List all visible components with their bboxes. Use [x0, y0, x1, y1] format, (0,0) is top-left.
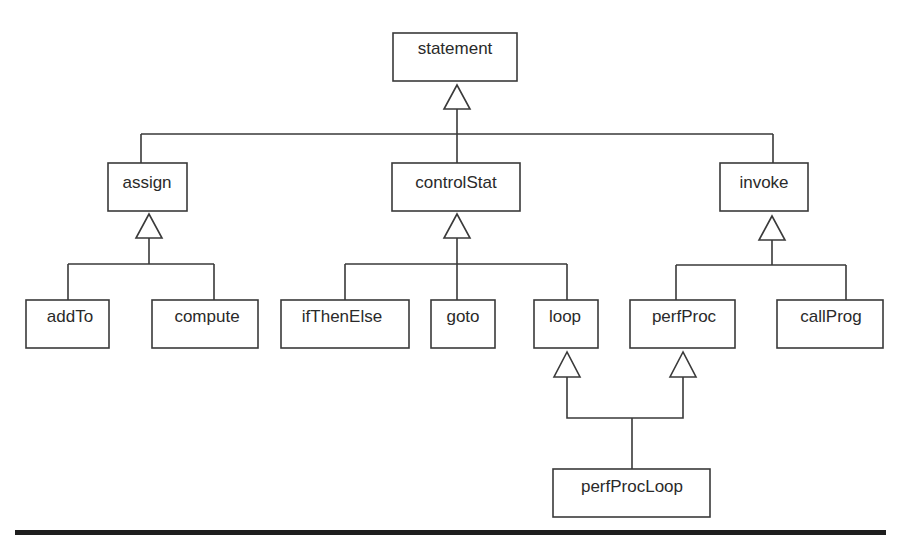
- node-label: perfProcLoop: [581, 477, 683, 496]
- figure-bottom-rule: [15, 530, 886, 535]
- connector-statement-children: [141, 109, 773, 163]
- node-goto: goto: [431, 300, 495, 348]
- node-compute: compute: [152, 300, 258, 348]
- node-label: perfProc: [652, 307, 717, 326]
- node-label: statement: [418, 39, 493, 58]
- connector-controlStat-children: [345, 238, 567, 300]
- node-label: ifThenElse: [302, 307, 382, 326]
- generalization-arrow-icon: [670, 352, 696, 377]
- node-callProg: callProg: [777, 300, 883, 348]
- generalization-arrow-icon: [759, 216, 785, 240]
- connector-invoke-children: [676, 240, 846, 300]
- connector-assign-children: [68, 238, 214, 300]
- node-invoke: invoke: [720, 163, 808, 211]
- node-assign: assign: [108, 163, 187, 211]
- node-label: compute: [174, 307, 239, 326]
- inheritance-diagram: statement assign controlStat invoke addT…: [0, 0, 906, 549]
- node-ifThenElse: ifThenElse: [281, 300, 409, 348]
- node-statement: statement: [393, 33, 517, 81]
- generalization-arrow-icon: [554, 352, 580, 377]
- node-label: assign: [122, 173, 171, 192]
- node-perfProcLoop: perfProcLoop: [553, 469, 710, 517]
- generalization-arrow-icon: [136, 214, 162, 238]
- node-label: loop: [549, 307, 581, 326]
- node-label: addTo: [47, 307, 93, 326]
- generalization-arrow-icon: [444, 85, 470, 109]
- generalization-arrow-icon: [444, 214, 470, 238]
- node-label: controlStat: [415, 173, 497, 192]
- node-label: goto: [446, 307, 479, 326]
- node-perfProc: perfProc: [630, 300, 735, 348]
- node-loop: loop: [534, 300, 598, 348]
- node-controlStat: controlStat: [392, 163, 520, 211]
- node-addTo: addTo: [26, 300, 109, 348]
- node-label: callProg: [800, 307, 861, 326]
- node-label: invoke: [739, 173, 788, 192]
- connector-perfProcLoop-parents: [567, 377, 683, 469]
